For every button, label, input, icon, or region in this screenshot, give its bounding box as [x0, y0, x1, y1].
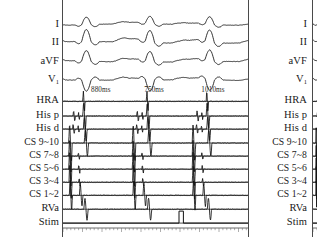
channel-label-his-d: His d — [36, 123, 59, 134]
channel-label-text: Stim — [39, 216, 59, 227]
channel-label-lead-v1: V1 — [48, 74, 59, 85]
channel-label-cs-7-8: CS 7~8 — [29, 150, 59, 160]
interval-annotation-750ms: 750ms — [144, 86, 164, 94]
channel-label-lead-ii: II — [52, 37, 59, 48]
channel-label-hra: HRA — [37, 95, 59, 106]
channel-label-lead-avf-repeat: aVF — [289, 56, 307, 67]
channel-label-cs-9-10: CS 9~10 — [24, 137, 59, 147]
channel-label-column-repeat: IIIaVFV1HRAHis pHis dCS 9~10CS 7~8CS 5~6… — [248, 0, 310, 237]
waveform-canvas-repeat — [313, 0, 317, 237]
channel-label-text: CS 7~8 — [277, 149, 307, 160]
channel-label-lead-v1-repeat: V1 — [296, 74, 307, 85]
channel-label-his-p: His p — [36, 110, 59, 121]
channel-label-rva-repeat: RVa — [289, 203, 307, 214]
channel-label-text: CS 3~4 — [29, 175, 59, 186]
channel-label-rva: RVa — [41, 203, 59, 214]
ep-panel-main: IIIaVFV1HRAHis pHis dCS 9~10CS 7~8CS 5~6… — [0, 0, 249, 237]
channel-label-cs-9-10-repeat: CS 9~10 — [272, 137, 307, 147]
channel-label-stim-repeat: Stim — [287, 217, 307, 228]
channel-label-text: HRA — [285, 94, 307, 105]
channel-label-subscript: 1 — [56, 78, 59, 85]
channel-label-column-main: IIIaVFV1HRAHis pHis dCS 9~10CS 7~8CS 5~6… — [0, 0, 62, 237]
channel-label-text: CS 1~2 — [277, 188, 307, 199]
channel-label-lead-i: I — [55, 19, 59, 30]
channel-label-cs-5-6-repeat: CS 5~6 — [277, 163, 307, 173]
interval-annotation-880ms: 880ms — [91, 86, 111, 94]
channel-label-cs-7-8-repeat: CS 7~8 — [277, 150, 307, 160]
channel-label-text: aVF — [41, 55, 59, 66]
channel-label-cs-3-4-repeat: CS 3~4 — [277, 176, 307, 186]
waveform-plot-main[interactable] — [62, 0, 249, 237]
channel-label-text: CS 9~10 — [272, 136, 307, 147]
channel-label-cs-1-2-repeat: CS 1~2 — [277, 189, 307, 199]
channel-label-his-p-repeat: His p — [284, 110, 307, 121]
channel-label-text: HRA — [37, 94, 59, 105]
channel-label-text: His d — [36, 122, 59, 133]
channel-label-text: I — [303, 18, 307, 29]
channel-label-text: CS 3~4 — [277, 175, 307, 186]
channel-label-text: RVa — [41, 202, 59, 213]
channel-label-lead-i-repeat: I — [303, 19, 307, 30]
channel-label-subscript: 1 — [304, 78, 307, 85]
channel-label-text: II — [300, 36, 307, 47]
channel-label-text: CS 7~8 — [29, 149, 59, 160]
channel-label-text: His p — [36, 109, 59, 120]
channel-label-text: CS 9~10 — [24, 136, 59, 147]
channel-label-text: V — [48, 73, 56, 84]
channel-label-text: CS 5~6 — [29, 162, 59, 173]
ep-panel-repeat: IIIaVFV1HRAHis pHis dCS 9~10CS 7~8CS 5~6… — [251, 0, 317, 237]
channel-label-lead-avf: aVF — [41, 56, 59, 67]
channel-label-text: Stim — [287, 216, 307, 227]
ep-recording-screenshot: IIIaVFV1HRAHis pHis dCS 9~10CS 7~8CS 5~6… — [0, 0, 317, 237]
channel-label-text: V — [296, 73, 304, 84]
channel-label-hra-repeat: HRA — [285, 95, 307, 106]
channel-label-his-d-repeat: His d — [284, 123, 307, 134]
channel-label-text: aVF — [289, 55, 307, 66]
channel-label-text: CS 1~2 — [29, 188, 59, 199]
channel-label-text: RVa — [289, 202, 307, 213]
waveform-canvas-main — [63, 0, 249, 237]
channel-label-cs-1-2: CS 1~2 — [29, 189, 59, 199]
interval-annotation-1010ms: 1010ms — [201, 86, 224, 94]
channel-label-text: His p — [284, 109, 307, 120]
channel-label-text: II — [52, 36, 59, 47]
waveform-plot-repeat[interactable] — [312, 0, 317, 237]
channel-label-text: CS 5~6 — [277, 162, 307, 173]
channel-label-cs-5-6: CS 5~6 — [29, 163, 59, 173]
channel-label-text: I — [55, 18, 59, 29]
channel-label-text: His d — [284, 122, 307, 133]
channel-label-stim: Stim — [39, 217, 59, 228]
channel-label-lead-ii-repeat: II — [300, 37, 307, 48]
channel-label-cs-3-4: CS 3~4 — [29, 176, 59, 186]
